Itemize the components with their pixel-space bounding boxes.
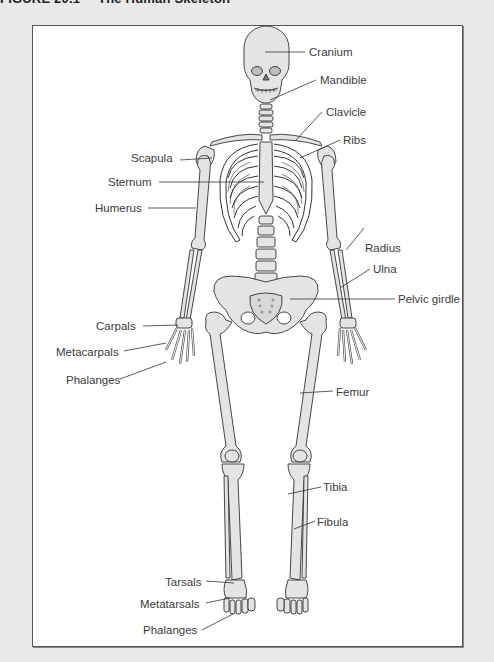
skull <box>244 26 289 103</box>
skeleton-illustration <box>0 0 494 662</box>
label-phalanges-hand: Phalanges <box>66 374 120 387</box>
label-clavicle: Clavicle <box>326 106 366 119</box>
label-tarsals: Tarsals <box>165 576 201 589</box>
label-ulna: Ulna <box>373 263 397 276</box>
label-femur: Femur <box>336 386 369 399</box>
label-mandible: Mandible <box>320 74 367 87</box>
label-sternum: Sternum <box>108 176 151 189</box>
label-fibula: Fibula <box>317 516 348 529</box>
humerus-left <box>191 156 210 251</box>
patella-left <box>225 450 239 462</box>
label-humerus: Humerus <box>95 202 142 215</box>
cervical-spine <box>259 104 273 133</box>
label-tibia: Tibia <box>323 481 348 494</box>
label-cranium: Cranium <box>309 46 352 59</box>
femur-left <box>206 312 242 462</box>
label-scapula: Scapula <box>131 152 173 165</box>
label-metacarpals: Metacarpals <box>56 346 119 359</box>
lumbar-spine <box>255 216 277 283</box>
hand-right <box>338 318 366 364</box>
sternum <box>259 142 273 214</box>
foot-right <box>277 580 308 614</box>
femur-right <box>291 312 327 462</box>
patella-right <box>293 450 307 462</box>
humerus-right <box>321 156 340 251</box>
label-metatarsals: Metatarsals <box>140 598 199 611</box>
label-carpals: Carpals <box>96 320 136 333</box>
label-pelvic-girdle: Pelvic girdle <box>398 293 460 306</box>
label-ribs: Ribs <box>343 134 366 147</box>
foot-left <box>224 580 255 614</box>
label-phalanges-foot: Phalanges <box>143 624 197 637</box>
label-radius: Radius <box>365 242 401 255</box>
